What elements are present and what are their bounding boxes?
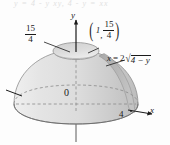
fraction-denominator: 4 [25, 35, 36, 44]
curve-equation-label: x = 2 √ 4 − y [107, 54, 151, 65]
figure-container: y = 4 - y xy, 4 - y = xx [0, 0, 170, 145]
fraction-fifteen-fourths: 15 4 [25, 24, 36, 45]
open-paren: ( [89, 22, 93, 39]
x-intercept-label: 4 [119, 110, 124, 119]
point-fraction-numerator: 15 [103, 20, 114, 29]
point-coordinate-label: ( 1 , 15 4 ) [88, 20, 121, 41]
y-axis-label: y [71, 11, 75, 20]
equation-radical: √ 4 − y [125, 54, 151, 65]
fraction-numerator: 15 [25, 24, 36, 33]
x-axis-label: x [150, 106, 154, 115]
height-label: 15 4 [25, 24, 36, 45]
equation-equals-sign: = [111, 54, 120, 63]
radicand: 4 − y [131, 55, 151, 65]
solid-of-revolution-diagram [0, 0, 170, 145]
point-fraction-denominator: 4 [103, 31, 114, 40]
origin-label: 0 [64, 88, 69, 98]
radical-sign: √ [125, 54, 130, 63]
x-intercept-marker [130, 110, 132, 112]
point-y-fraction: 15 4 [103, 20, 114, 41]
close-paren: ) [116, 22, 120, 39]
